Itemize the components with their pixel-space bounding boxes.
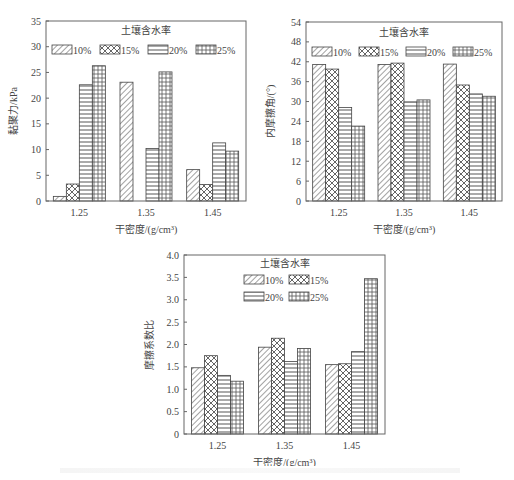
bar-10pct-1.25 bbox=[192, 368, 205, 434]
bar-15pct-1.35 bbox=[272, 338, 285, 434]
y-tick-label: 35 bbox=[31, 16, 41, 27]
y-tick-label: 0 bbox=[174, 429, 179, 440]
bar-15pct-1.25 bbox=[205, 356, 218, 434]
y-tick-label: 1.5 bbox=[167, 361, 180, 372]
bar-25pct-1.25 bbox=[231, 381, 244, 434]
bar-10pct-1.45 bbox=[326, 365, 339, 434]
legend-label: 15% bbox=[310, 275, 328, 286]
x-axis-label: 干密度/(g/cm³) bbox=[373, 223, 435, 236]
y-tick-label: 15 bbox=[31, 118, 41, 129]
y-axis-label: 黏聚力/kPa bbox=[7, 87, 19, 135]
legend-swatch-25pct bbox=[289, 292, 309, 301]
y-tick-label: 54 bbox=[291, 17, 301, 28]
x-tick-label: 1.45 bbox=[204, 207, 222, 218]
x-tick-label: 1.25 bbox=[330, 207, 348, 218]
y-tick-label: 36 bbox=[291, 76, 301, 87]
bar-10pct-1.45 bbox=[443, 64, 456, 201]
bar-15pct-1.45 bbox=[456, 85, 469, 201]
bar-15pct-1.45 bbox=[339, 364, 352, 434]
y-tick-label: 0.5 bbox=[167, 406, 180, 417]
bar-20pct-1.25 bbox=[339, 108, 352, 201]
bar-15pct-1.25 bbox=[326, 69, 339, 201]
legend-label: 10% bbox=[265, 275, 283, 286]
x-axis-label: 干密度/(g/cm³) bbox=[115, 223, 177, 236]
y-tick-label: 4.0 bbox=[167, 250, 180, 261]
legend-swatch-25pct bbox=[196, 45, 216, 54]
y-tick-label: 48 bbox=[291, 36, 301, 47]
legend-label: 25% bbox=[310, 292, 328, 303]
legend-label: 25% bbox=[474, 47, 492, 58]
x-tick-label: 1.45 bbox=[343, 440, 361, 451]
y-tick-label: 5 bbox=[36, 170, 41, 181]
y-tick-label: 0 bbox=[36, 196, 41, 207]
y-axis-label: 摩擦系数比 bbox=[143, 320, 155, 370]
y-tick-label: 2.5 bbox=[167, 317, 180, 328]
bar-20pct-1.35 bbox=[146, 149, 159, 201]
bar-20pct-1.35 bbox=[404, 102, 417, 201]
legend-swatch-10pct bbox=[244, 275, 264, 284]
legend-label: 10% bbox=[333, 47, 351, 58]
y-tick-label: 30 bbox=[31, 41, 41, 52]
y-axis-label: 内摩擦角/(°) bbox=[264, 85, 277, 138]
bar-10pct-1.45 bbox=[187, 170, 200, 201]
internal-friction-angle-chart: 1.251.351.45061218243036424854干密度/(g/cm³… bbox=[257, 0, 514, 240]
x-axis-label: 干密度/(g/cm³) bbox=[253, 456, 315, 466]
y-tick-label: 12 bbox=[291, 156, 301, 167]
bar-20pct-1.45 bbox=[352, 352, 365, 434]
bar-25pct-1.45 bbox=[482, 96, 495, 201]
bar-20pct-1.45 bbox=[213, 143, 226, 201]
x-tick-label: 1.25 bbox=[209, 440, 227, 451]
y-tick-label: 2.0 bbox=[167, 339, 180, 350]
bar-15pct-1.25 bbox=[66, 184, 79, 201]
bar-10pct-1.25 bbox=[313, 64, 326, 201]
legend-label: 10% bbox=[73, 45, 91, 56]
x-tick-label: 1.45 bbox=[461, 207, 479, 218]
legend-label: 20% bbox=[169, 45, 187, 56]
bar-10pct-1.35 bbox=[378, 64, 391, 201]
bar-10pct-1.35 bbox=[120, 82, 133, 201]
bar-15pct-1.45 bbox=[200, 185, 213, 201]
bar-20pct-1.35 bbox=[285, 362, 298, 434]
x-tick-label: 1.25 bbox=[71, 207, 89, 218]
figure-caption-blurred bbox=[60, 468, 460, 473]
y-tick-label: 3.5 bbox=[167, 272, 180, 283]
cohesion-chart: 1.251.351.4505101520253035干密度/(g/cm³)黏聚力… bbox=[0, 0, 257, 240]
legend-swatch-20pct bbox=[406, 47, 426, 56]
legend-label: 20% bbox=[427, 47, 445, 58]
y-tick-label: 3.0 bbox=[167, 294, 180, 305]
legend-swatch-25pct bbox=[453, 47, 473, 56]
legend-swatch-20pct bbox=[148, 45, 168, 54]
legend-swatch-15pct bbox=[100, 45, 120, 54]
legend-swatch-10pct bbox=[52, 45, 72, 54]
legend-label: 15% bbox=[380, 47, 398, 58]
x-tick-label: 1.35 bbox=[137, 207, 155, 218]
legend-swatch-20pct bbox=[244, 292, 264, 301]
y-tick-label: 6 bbox=[296, 176, 301, 187]
y-tick-label: 10 bbox=[31, 144, 41, 155]
y-tick-label: 30 bbox=[291, 96, 301, 107]
x-tick-label: 1.35 bbox=[276, 440, 294, 451]
bar-15pct-1.35 bbox=[391, 63, 404, 201]
y-tick-label: 20 bbox=[31, 93, 41, 104]
legend-label: 20% bbox=[265, 292, 283, 303]
y-tick-label: 0 bbox=[296, 196, 301, 207]
y-tick-label: 42 bbox=[291, 56, 301, 67]
bar-25pct-1.35 bbox=[159, 72, 172, 201]
bar-25pct-1.45 bbox=[365, 279, 378, 434]
legend-swatch-15pct bbox=[359, 47, 379, 56]
x-tick-label: 1.35 bbox=[395, 207, 413, 218]
legend-swatch-15pct bbox=[289, 275, 309, 284]
bar-10pct-1.35 bbox=[259, 347, 272, 434]
legend-title: 土壤含水率 bbox=[121, 24, 171, 36]
bar-10pct-1.25 bbox=[53, 196, 66, 201]
legend-title: 土壤含水率 bbox=[260, 257, 310, 269]
bar-25pct-1.35 bbox=[298, 349, 311, 434]
bar-20pct-1.25 bbox=[218, 375, 231, 434]
bar-25pct-1.45 bbox=[226, 151, 239, 201]
y-tick-label: 24 bbox=[291, 116, 301, 127]
bar-20pct-1.45 bbox=[469, 94, 482, 201]
bar-25pct-1.25 bbox=[352, 126, 365, 201]
legend-label: 25% bbox=[217, 45, 235, 56]
legend-label: 15% bbox=[121, 45, 139, 56]
y-tick-label: 18 bbox=[291, 136, 301, 147]
